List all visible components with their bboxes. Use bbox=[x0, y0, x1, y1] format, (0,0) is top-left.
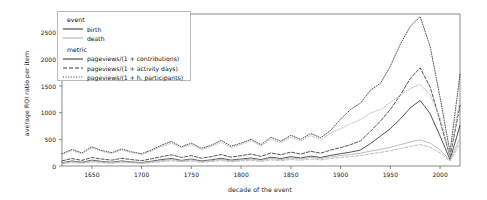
legend-swatch-dashed bbox=[63, 64, 83, 72]
y-tick-label: 2000 bbox=[22, 56, 56, 63]
x-tick-label: 1750 bbox=[171, 171, 211, 178]
y-tick-label: 0 bbox=[22, 163, 56, 170]
legend-swatch-dotted bbox=[63, 73, 83, 81]
legend-label-metric-activity-days: pageviews/(1 + activity days) bbox=[87, 65, 178, 72]
legend-item-metric-contributions[interactable]: pageviews/(1 + contributions) bbox=[63, 54, 185, 63]
legend-label-metric-contributions: pageviews/(1 + contributions) bbox=[87, 55, 179, 62]
legend-label-birth: birth bbox=[87, 26, 101, 33]
x-tick-label: 1850 bbox=[271, 171, 311, 178]
legend-label-metric-participants: pageviews/(1 + h. participants) bbox=[87, 74, 183, 81]
legend-item-birth[interactable]: birth bbox=[63, 25, 185, 34]
legend-group-title-event: event bbox=[67, 16, 185, 23]
x-tick-label: 2000 bbox=[420, 171, 460, 178]
x-tick-label: 1900 bbox=[321, 171, 361, 178]
chart-figure: average ROI ratio per item decade of the… bbox=[0, 0, 487, 200]
x-tick-label: 1700 bbox=[122, 171, 162, 178]
legend-item-death[interactable]: death bbox=[63, 34, 185, 43]
x-tick-label: 1650 bbox=[72, 171, 112, 178]
legend-group-title-metric: metric bbox=[67, 46, 185, 53]
series-line bbox=[62, 100, 460, 162]
x-axis-title: decade of the event bbox=[150, 186, 370, 193]
y-tick-label: 500 bbox=[22, 136, 56, 143]
x-tick-label: 1800 bbox=[221, 171, 261, 178]
y-tick-label: 2500 bbox=[22, 29, 56, 36]
y-tick-label: 1000 bbox=[22, 109, 56, 116]
legend-label-death: death bbox=[87, 35, 105, 42]
chart-legend: event birth death metric pageviews/(1 + … bbox=[57, 11, 191, 81]
legend-swatch-death bbox=[63, 34, 83, 42]
legend-swatch-birth bbox=[63, 25, 83, 33]
y-tick-label: 1500 bbox=[22, 83, 56, 90]
legend-swatch-solid bbox=[63, 55, 83, 63]
x-tick-label: 1950 bbox=[370, 171, 410, 178]
legend-item-metric-activity-days[interactable]: pageviews/(1 + activity days) bbox=[63, 64, 185, 73]
legend-item-metric-participants[interactable]: pageviews/(1 + h. participants) bbox=[63, 73, 185, 82]
